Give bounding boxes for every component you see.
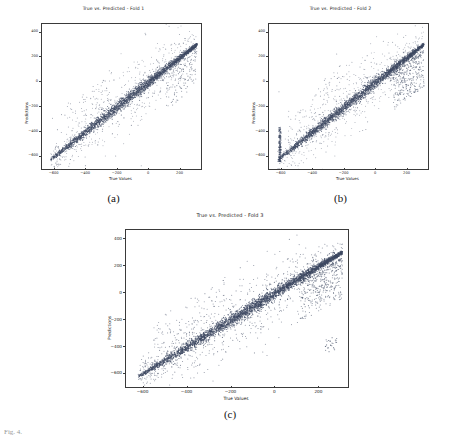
x-tick-label: 0 xyxy=(363,171,387,175)
x-tick-label: −200 xyxy=(332,171,356,175)
x-tick-label: 0 xyxy=(136,171,160,175)
x-tick-mark xyxy=(180,168,181,170)
y-tick-mark xyxy=(39,56,41,57)
x-tick-mark xyxy=(187,386,188,388)
x-tick-label: 200 xyxy=(168,171,192,175)
y-tick-mark xyxy=(123,292,125,293)
y-tick-mark xyxy=(39,32,41,33)
chart-title-fold-1: True vs. Predicted - Fold 1 xyxy=(0,6,227,11)
x-tick-label: 200 xyxy=(306,389,330,394)
x-tick-mark xyxy=(85,168,86,170)
y-tick-mark xyxy=(123,373,125,374)
y-tick-label: −600 xyxy=(246,153,265,157)
x-tick-mark xyxy=(375,168,376,170)
x-tick-mark xyxy=(407,168,408,170)
y-tick-label: −400 xyxy=(19,129,38,133)
x-axis-label-fold-2: True Values xyxy=(268,176,427,181)
y-tick-mark xyxy=(123,346,125,347)
plot-area-fold-2 xyxy=(268,23,429,170)
y-tick-label: 0 xyxy=(103,290,122,295)
x-tick-mark xyxy=(312,168,313,170)
scatter-canvas-fold-3 xyxy=(126,230,348,387)
x-tick-mark xyxy=(143,386,144,388)
figure-panel-grid: True vs. Predicted - Fold 1 Predictions … xyxy=(0,0,454,435)
y-tick-label: −400 xyxy=(246,129,265,133)
subplot-fold-3: True vs. Predicted - Fold 3 Predictions … xyxy=(100,212,360,412)
y-tick-label: −400 xyxy=(103,344,122,349)
scatter-canvas-fold-2 xyxy=(269,24,428,169)
y-tick-label: −200 xyxy=(246,104,265,108)
y-tick-mark xyxy=(39,106,41,107)
subcaption-b: (b) xyxy=(227,192,454,204)
x-tick-mark xyxy=(318,386,319,388)
scatter-canvas-fold-1 xyxy=(42,24,201,169)
subcaption-a: (a) xyxy=(0,192,227,204)
y-tick-label: 400 xyxy=(103,236,122,241)
y-tick-label: 400 xyxy=(246,29,265,33)
figure-caption-partial: Fig. 4. xyxy=(4,428,22,435)
subcaption-c: (c) xyxy=(100,408,360,420)
x-tick-mark xyxy=(117,168,118,170)
x-tick-mark xyxy=(231,386,232,388)
subplot-fold-2: True vs. Predicted - Fold 2 Predictions … xyxy=(227,6,454,181)
y-tick-label: 400 xyxy=(19,29,38,33)
y-tick-mark xyxy=(266,56,268,57)
x-tick-mark xyxy=(54,168,55,170)
x-tick-mark xyxy=(281,168,282,170)
y-tick-mark xyxy=(266,131,268,132)
y-tick-mark xyxy=(39,131,41,132)
chart-title-fold-3: True vs. Predicted - Fold 3 xyxy=(100,212,360,218)
y-tick-mark xyxy=(266,81,268,82)
y-tick-label: 0 xyxy=(246,79,265,83)
x-tick-label: −200 xyxy=(219,389,243,394)
x-tick-label: −200 xyxy=(105,171,129,175)
y-tick-mark xyxy=(123,238,125,239)
y-tick-label: 200 xyxy=(246,54,265,58)
x-tick-mark xyxy=(344,168,345,170)
plot-area-fold-3 xyxy=(125,229,349,388)
plot-area-fold-1 xyxy=(41,23,202,170)
y-tick-label: 200 xyxy=(19,54,38,58)
y-tick-label: 0 xyxy=(19,79,38,83)
x-tick-label: −400 xyxy=(300,171,324,175)
subplot-fold-1: True vs. Predicted - Fold 1 Predictions … xyxy=(0,6,227,181)
x-tick-label: −600 xyxy=(42,171,66,175)
x-tick-mark xyxy=(148,168,149,170)
x-tick-label: 200 xyxy=(395,171,419,175)
x-tick-label: −600 xyxy=(269,171,293,175)
y-tick-label: 200 xyxy=(103,263,122,268)
y-tick-mark xyxy=(39,156,41,157)
y-tick-mark xyxy=(266,156,268,157)
y-tick-mark xyxy=(266,106,268,107)
y-tick-label: −200 xyxy=(19,104,38,108)
y-tick-label: −600 xyxy=(19,153,38,157)
x-tick-mark xyxy=(274,386,275,388)
y-tick-mark xyxy=(123,319,125,320)
x-tick-label: −600 xyxy=(131,389,155,394)
y-tick-mark xyxy=(266,32,268,33)
x-tick-label: −400 xyxy=(175,389,199,394)
y-tick-mark xyxy=(123,265,125,266)
chart-title-fold-2: True vs. Predicted - Fold 2 xyxy=(227,6,454,11)
y-tick-label: −600 xyxy=(103,370,122,375)
x-axis-label-fold-3: True Values xyxy=(125,396,347,401)
x-axis-label-fold-1: True Values xyxy=(41,176,200,181)
y-tick-mark xyxy=(39,81,41,82)
x-tick-label: −400 xyxy=(73,171,97,175)
y-tick-label: −200 xyxy=(103,317,122,322)
x-tick-label: 0 xyxy=(262,389,286,394)
